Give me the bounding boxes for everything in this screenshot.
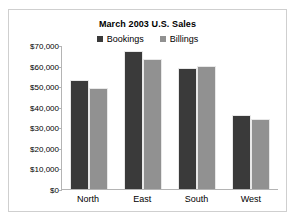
bar-groups — [62, 46, 278, 189]
x-axis-label-east: East — [115, 194, 169, 204]
y-axis-tick-label: $50,000 — [30, 83, 59, 92]
bar-group — [224, 46, 278, 189]
y-axis-tick-label: $10,000 — [30, 165, 59, 174]
x-axis-label-south: South — [170, 194, 224, 204]
plot-wrapper: $0$10,000$20,000$30,000$40,000$50,000$60… — [9, 10, 286, 211]
bar-south-billings[interactable] — [197, 66, 216, 189]
y-axis-labels: $0$10,000$20,000$30,000$40,000$50,000$60… — [11, 46, 59, 190]
bar-group — [170, 46, 224, 189]
bar-east-billings[interactable] — [143, 59, 162, 189]
chart-frame: March 2003 U.S. Sales Bookings Billings … — [8, 9, 287, 212]
y-axis-tick — [59, 87, 62, 88]
bar-group — [62, 46, 116, 189]
plot-area — [61, 46, 278, 190]
y-axis-tick — [59, 46, 62, 47]
bar-south-bookings[interactable] — [178, 68, 197, 189]
y-axis-tick — [59, 169, 62, 170]
x-axis-label-west: West — [224, 194, 278, 204]
y-axis-tick — [59, 108, 62, 109]
y-axis-tick-label: $30,000 — [30, 124, 59, 133]
bar-west-billings[interactable] — [251, 119, 270, 189]
y-axis-tick-label: $60,000 — [30, 62, 59, 71]
x-axis-labels: NorthEastSouthWest — [61, 194, 278, 204]
y-axis-tick-label: $40,000 — [30, 103, 59, 112]
y-axis-tick-label: $20,000 — [30, 144, 59, 153]
x-axis-label-north: North — [61, 194, 115, 204]
y-axis-tick-label: $70,000 — [30, 42, 59, 51]
y-axis-tick — [59, 128, 62, 129]
bar-north-bookings[interactable] — [70, 80, 89, 189]
y-axis-tick-label: $0 — [50, 186, 59, 195]
bar-west-bookings[interactable] — [232, 115, 251, 189]
y-axis-tick — [59, 149, 62, 150]
y-axis-tick — [59, 190, 62, 191]
bar-north-billings[interactable] — [89, 88, 108, 189]
bar-east-bookings[interactable] — [124, 51, 143, 189]
y-axis-tick — [59, 67, 62, 68]
bar-group — [116, 46, 170, 189]
